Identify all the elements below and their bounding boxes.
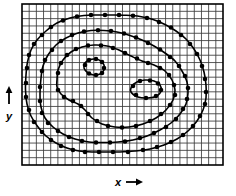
contour-data-point xyxy=(144,96,149,101)
contour-data-point xyxy=(87,58,92,63)
contour-data-point xyxy=(195,52,200,57)
contour-data-point xyxy=(50,48,55,53)
contour-data-point xyxy=(71,99,76,104)
contour-data-point xyxy=(146,41,151,46)
contour-data-point xyxy=(200,64,205,69)
contour-data-point xyxy=(148,119,153,124)
contour-data-point xyxy=(100,60,105,65)
contour-data-point xyxy=(168,55,173,60)
contour-data-point xyxy=(46,121,51,126)
contour-data-point xyxy=(27,53,32,58)
contour-data-point xyxy=(87,71,92,76)
figure-background xyxy=(0,0,236,196)
contour-data-point xyxy=(135,56,140,61)
contour-data-point xyxy=(126,150,131,155)
contour-data-point xyxy=(131,14,136,19)
contour-data-point xyxy=(32,120,37,125)
contour-data-point xyxy=(40,69,45,74)
contour-data-point xyxy=(99,43,104,48)
x-axis-label-text: x xyxy=(114,176,122,188)
contour-data-point xyxy=(152,131,157,136)
contour-data-point xyxy=(59,39,64,44)
contour-data-point xyxy=(134,93,139,98)
contour-data-point xyxy=(49,25,54,30)
contour-data-point xyxy=(24,95,29,100)
contour-data-point xyxy=(89,13,94,18)
contour-data-point xyxy=(106,124,111,129)
contour-data-point xyxy=(155,145,160,150)
contour-data-point xyxy=(40,130,45,135)
contour-data-point xyxy=(32,42,37,47)
contour-data-point xyxy=(24,81,29,86)
contour-data-point xyxy=(157,20,162,25)
contour-data-point xyxy=(186,86,191,91)
contour-data-point xyxy=(25,66,30,71)
contour-data-point xyxy=(49,138,54,143)
contour-data-point xyxy=(59,144,64,149)
contour-data-point xyxy=(174,117,179,122)
contour-data-point xyxy=(123,51,128,56)
contour-data-point xyxy=(181,133,186,138)
contour-data-point xyxy=(86,112,91,117)
contour-data-point xyxy=(75,14,80,19)
contour-data-point xyxy=(117,13,122,18)
contour-data-point xyxy=(204,90,209,95)
contour-data-point xyxy=(83,63,88,68)
y-axis-label-text: y xyxy=(5,110,13,122)
contour-data-point xyxy=(62,95,67,100)
contour-data-point xyxy=(169,25,174,30)
contour-data-point xyxy=(95,119,100,124)
contour-data-point xyxy=(172,83,177,88)
contour-data-point xyxy=(167,73,172,78)
contour-figure: y x xyxy=(0,0,236,196)
contour-data-point xyxy=(158,47,163,52)
contour-data-point xyxy=(177,64,182,69)
contour-data-point xyxy=(159,112,164,117)
contour-data-point xyxy=(203,102,208,107)
contour-data-point xyxy=(185,97,190,102)
contour-data-point xyxy=(109,29,114,34)
contour-data-point xyxy=(203,77,208,82)
contour-data-point xyxy=(94,73,99,78)
contour-data-point xyxy=(86,43,91,48)
contour-data-point xyxy=(122,31,127,36)
contour-data-point xyxy=(158,66,163,71)
contour-data-point xyxy=(120,125,125,130)
contour-data-point xyxy=(134,35,139,40)
contour-data-point xyxy=(100,71,105,76)
contour-data-point xyxy=(40,33,45,38)
contour-data-point xyxy=(38,85,43,90)
contour-data-point xyxy=(94,57,99,62)
contour-data-point xyxy=(94,140,99,145)
contour-data-point xyxy=(61,18,66,23)
contour-data-point xyxy=(179,33,184,38)
contour-data-point xyxy=(188,42,193,47)
contour-data-point xyxy=(56,88,61,93)
contour-data-point xyxy=(183,74,188,79)
contour-data-point xyxy=(123,139,128,144)
contour-data-point xyxy=(168,103,173,108)
contour-data-point xyxy=(146,61,151,66)
contour-data-point xyxy=(108,140,113,145)
contour-data-point xyxy=(27,108,32,113)
contour-data-point xyxy=(74,47,79,52)
contour-data-point xyxy=(141,148,146,153)
contour-data-point xyxy=(181,107,186,112)
contour-data-point xyxy=(67,135,72,140)
contour-data-point xyxy=(65,53,70,58)
contour-data-point xyxy=(156,81,161,86)
contour-data-point xyxy=(103,13,108,18)
contour-data-point xyxy=(70,33,75,38)
contour-data-point xyxy=(131,84,136,89)
contour-data-point xyxy=(134,124,139,129)
contour-data-point xyxy=(79,104,84,109)
contour-data-point xyxy=(56,129,61,134)
contour-data-point xyxy=(40,111,45,116)
contour-data-point xyxy=(38,99,43,104)
contour-plot-svg: y x xyxy=(0,0,236,196)
contour-data-point xyxy=(169,140,174,145)
contour-data-point xyxy=(82,29,87,34)
contour-data-point xyxy=(97,150,102,155)
contour-data-point xyxy=(164,125,169,130)
contour-data-point xyxy=(56,71,61,76)
